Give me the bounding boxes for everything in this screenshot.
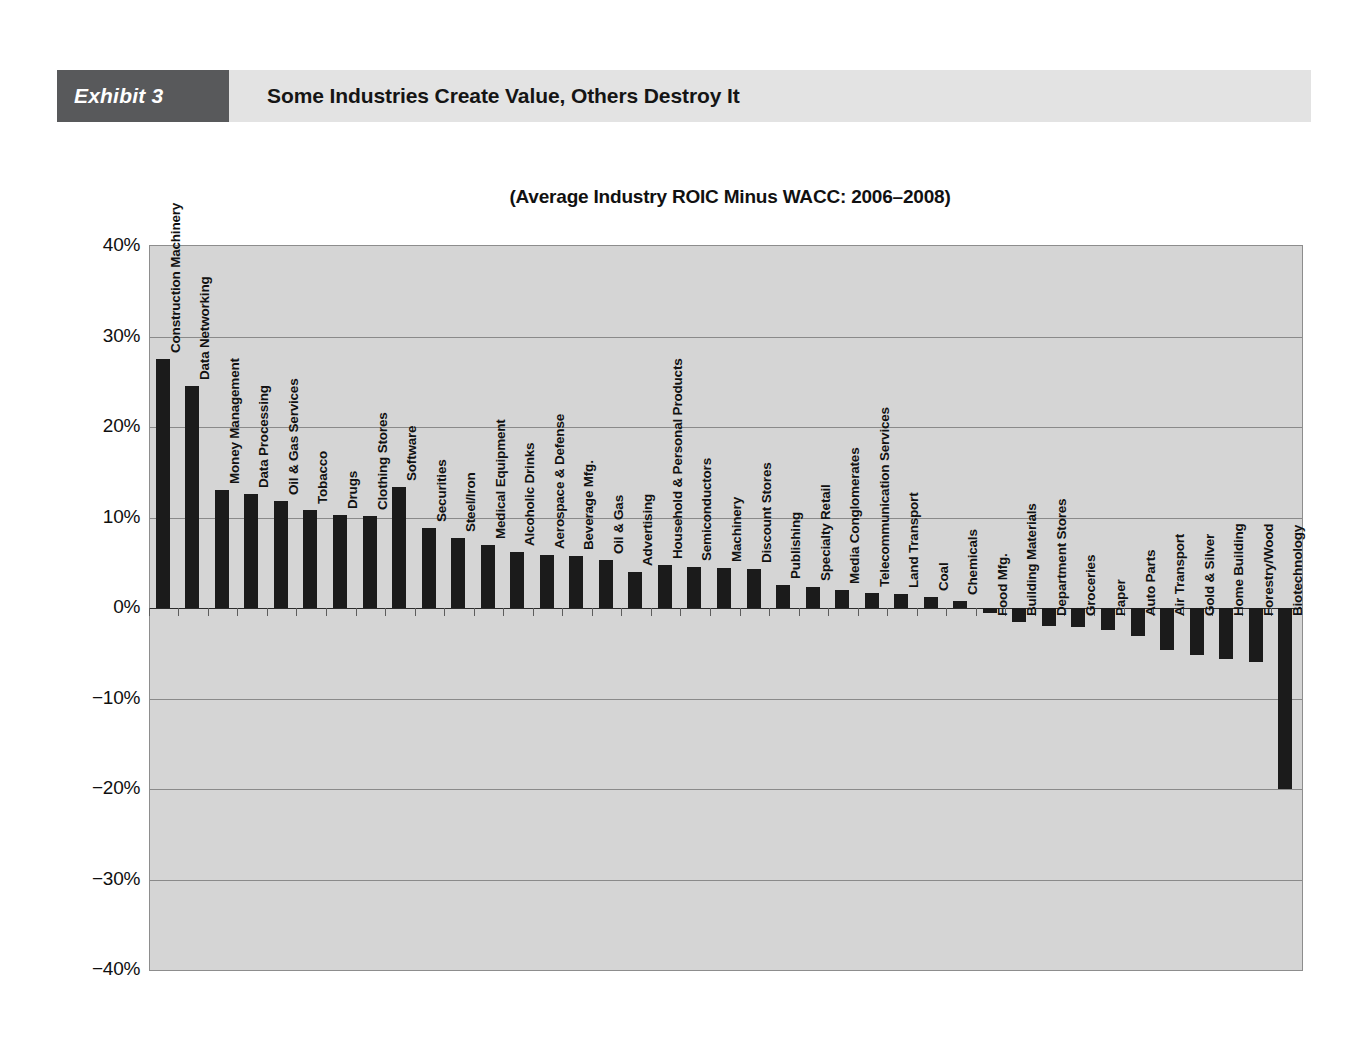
bar-category-label: Air Transport	[1172, 534, 1187, 616]
bar-category-label: Media Conglomerates	[847, 447, 862, 583]
bar[interactable]	[510, 552, 524, 608]
bar-slot[interactable]	[916, 246, 946, 970]
bar-category-label: Discount Stores	[759, 463, 774, 564]
x-axis-tick	[976, 608, 977, 616]
bar[interactable]	[599, 560, 613, 608]
bar-slot[interactable]	[355, 246, 385, 970]
bar-slot[interactable]	[384, 246, 414, 970]
bar-slot[interactable]	[266, 246, 296, 970]
bar-slot[interactable]	[857, 246, 887, 970]
bar-slot[interactable]	[502, 246, 532, 970]
bar[interactable]	[717, 568, 731, 608]
bar-slot[interactable]	[650, 246, 680, 970]
bar-category-label: Food Mfg.	[995, 553, 1010, 616]
x-axis-tick	[740, 608, 741, 616]
bar[interactable]	[747, 569, 761, 608]
bar-slot[interactable]	[473, 246, 503, 970]
bar-slot[interactable]	[562, 246, 592, 970]
bar[interactable]	[215, 490, 229, 608]
x-axis-tick	[533, 608, 534, 616]
x-axis-tick	[592, 608, 593, 616]
bar-slot[interactable]	[621, 246, 651, 970]
bar-slot[interactable]	[296, 246, 326, 970]
x-axis-tick	[237, 608, 238, 616]
bar[interactable]	[185, 386, 199, 608]
bar[interactable]	[569, 556, 583, 608]
bar-slot[interactable]	[768, 246, 798, 970]
bar[interactable]	[1278, 608, 1292, 789]
exhibit-header-band: Exhibit 3 Some Industries Create Value, …	[57, 70, 1311, 122]
x-axis-tick	[208, 608, 209, 616]
bar-category-label: Data Processing	[256, 385, 271, 488]
bar-category-label: Biotechnology	[1290, 525, 1305, 616]
y-axis-tick-label: 20%	[103, 415, 140, 437]
bar-slot[interactable]	[591, 246, 621, 970]
bar-category-label: Land Transport	[906, 492, 921, 587]
bar[interactable]	[924, 597, 938, 608]
bar-slot[interactable]	[680, 246, 710, 970]
bar-slot[interactable]	[827, 246, 857, 970]
bar-category-label: Steel/Iron	[463, 473, 478, 533]
bar-category-label: Specialty Retail	[818, 485, 833, 582]
bar[interactable]	[451, 538, 465, 608]
bar[interactable]	[333, 515, 347, 608]
bar-slot[interactable]	[237, 246, 267, 970]
bar-slot[interactable]	[739, 246, 769, 970]
bar[interactable]	[392, 487, 406, 608]
bar-category-label: Coal	[936, 563, 951, 591]
x-axis-tick	[710, 608, 711, 616]
bar-slot[interactable]	[946, 246, 976, 970]
bar-category-label: Aerospace & Defense	[552, 414, 567, 549]
bar-category-label: Gold & Silver	[1202, 534, 1217, 616]
bar-series	[150, 246, 1302, 970]
bar[interactable]	[776, 585, 790, 608]
bar-category-label: Money Management	[227, 359, 242, 485]
x-axis-tick	[503, 608, 504, 616]
bar[interactable]	[953, 601, 967, 608]
bar-category-label: Beverage Mfg.	[581, 460, 596, 550]
bar-slot[interactable]	[532, 246, 562, 970]
bar-category-label: Household & Personal Products	[670, 358, 685, 558]
x-axis-tick	[769, 608, 770, 616]
bar-category-label: Medical Equipment	[493, 419, 508, 539]
bar[interactable]	[363, 516, 377, 608]
bar-slot[interactable]	[414, 246, 444, 970]
bar[interactable]	[274, 501, 288, 608]
bar[interactable]	[865, 593, 879, 608]
bar[interactable]	[156, 359, 170, 608]
bar[interactable]	[658, 565, 672, 608]
x-axis-tick	[149, 608, 150, 616]
x-axis-tick	[326, 608, 327, 616]
y-axis-tick-label: −20%	[92, 777, 140, 799]
bar-slot[interactable]	[148, 246, 178, 970]
bar-category-label: Department Stores	[1054, 499, 1069, 616]
bar[interactable]	[540, 555, 554, 608]
bar[interactable]	[628, 572, 642, 608]
bar[interactable]	[894, 594, 908, 608]
y-axis-tick-label: 40%	[103, 234, 140, 256]
bar[interactable]	[835, 590, 849, 608]
bar-category-label: Telecommunication Services	[877, 407, 892, 587]
x-axis-tick	[356, 608, 357, 616]
bar[interactable]	[422, 528, 436, 608]
bar[interactable]	[244, 494, 258, 608]
bar-slot[interactable]	[443, 246, 473, 970]
bar-category-label: Auto Parts	[1143, 550, 1158, 616]
bar[interactable]	[481, 545, 495, 608]
x-axis-tick	[858, 608, 859, 616]
x-axis-tick	[651, 608, 652, 616]
bar[interactable]	[806, 587, 820, 608]
x-axis-tick	[562, 608, 563, 616]
bar-slot[interactable]	[798, 246, 828, 970]
x-axis-tick	[828, 608, 829, 616]
y-axis-tick-label: −40%	[92, 958, 140, 980]
bar[interactable]	[687, 567, 701, 608]
bar[interactable]	[303, 510, 317, 608]
bar-slot[interactable]	[709, 246, 739, 970]
bar-slot[interactable]	[325, 246, 355, 970]
bar-category-label: Groceries	[1083, 555, 1098, 616]
x-axis-tick	[267, 608, 268, 616]
bar-slot[interactable]	[886, 246, 916, 970]
x-axis-tick	[385, 608, 386, 616]
bar[interactable]	[1249, 608, 1263, 662]
